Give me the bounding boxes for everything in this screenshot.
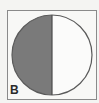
- unshaded-right-half: [52, 15, 92, 95]
- figure-label: B: [10, 84, 19, 97]
